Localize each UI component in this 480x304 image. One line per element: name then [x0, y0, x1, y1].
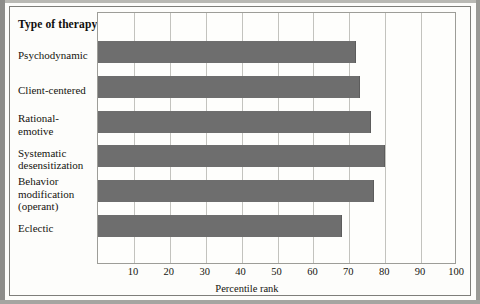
bar-3	[98, 111, 371, 133]
category-label-6: Eclectic	[18, 222, 53, 234]
bar-4	[98, 145, 385, 167]
category-label-3: Rational- emotive	[18, 112, 59, 137]
x-tick-label-90: 90	[405, 266, 435, 277]
x-tick-label-50: 50	[262, 266, 292, 277]
bar-6	[98, 215, 342, 237]
x-tick-label-100: 100	[441, 266, 471, 277]
bar-2	[98, 76, 360, 98]
bar-5	[98, 180, 374, 202]
x-tick-label-70: 70	[333, 266, 363, 277]
x-tick-label-20: 20	[154, 266, 184, 277]
page-edge-right	[476, 0, 480, 304]
x-tick-label-60: 60	[297, 266, 327, 277]
gridline-80	[385, 13, 386, 263]
page-edge-left	[0, 0, 5, 304]
x-tick-label-40: 40	[226, 266, 256, 277]
x-tick-label-30: 30	[190, 266, 220, 277]
plot-area	[97, 12, 456, 264]
category-label-2: Client-centered	[18, 84, 86, 96]
category-label-column: Type of therapy PsychodynamicClient-cent…	[18, 10, 100, 280]
x-axis-title: Percentile rank	[0, 283, 480, 294]
category-label-4: Systematic desensitization	[18, 147, 83, 172]
page-edge-top	[0, 0, 480, 3]
column-header-type-of-therapy: Type of therapy	[18, 18, 97, 31]
category-label-5: Behavior modification (operant)	[18, 175, 74, 212]
gridline-90	[421, 13, 422, 263]
category-label-1: Psychodynamic	[18, 49, 88, 61]
bar-1	[98, 41, 356, 63]
x-tick-label-10: 10	[118, 266, 148, 277]
page-edge-bottom	[0, 300, 480, 304]
x-tick-label-80: 80	[369, 266, 399, 277]
figure-container: Type of therapy PsychodynamicClient-cent…	[0, 0, 480, 304]
